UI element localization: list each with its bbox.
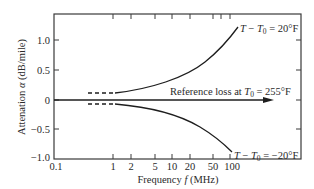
x-axis-ticks-top [113,14,230,19]
x-tick-label: 5 [152,161,157,172]
x-tick-label: 2 [128,161,133,172]
lower-curve-label: T − T0 = −20°F [234,150,298,163]
lower-curve [88,104,232,152]
x-tick-labels: 0.1 1 2 5 10 20 50 100 [49,161,239,172]
reference-label: Reference loss at T0 = 255°F [170,86,291,99]
x-tick-label: 100 [224,161,240,172]
y-tick-label: 0.5 [37,65,50,76]
y-tick-labels: 1.0 0.5 0 −0.5 −1.0 [31,35,50,163]
upper-curve [88,27,238,93]
arrowhead-icon [263,97,274,103]
upper-curve-label: T − T0 = 20°F [240,23,298,36]
reference-line [54,97,274,103]
x-tick-label: 50 [208,161,219,172]
x-tick-label: 1 [110,161,115,172]
attenuation-chart: 1.0 0.5 0 −0.5 −1.0 0.1 1 2 5 10 20 50 1… [0,0,314,189]
x-tick-label: 20 [185,161,196,172]
x-tick-label: 0.1 [49,161,62,172]
y-axis-ticks-left [54,40,59,129]
y-axis-label: Attenation α (dB/mile) [16,39,28,135]
y-tick-label: 0 [45,95,50,106]
y-axis-ticks-right [296,40,301,129]
y-tick-label: −1.0 [31,152,50,163]
x-axis-label: Frequency f (MHz) [137,174,219,186]
x-tick-label: 10 [167,161,178,172]
x-axis-ticks-bottom [113,154,230,159]
y-tick-label: 1.0 [37,35,50,46]
y-tick-label: −0.5 [31,124,50,135]
